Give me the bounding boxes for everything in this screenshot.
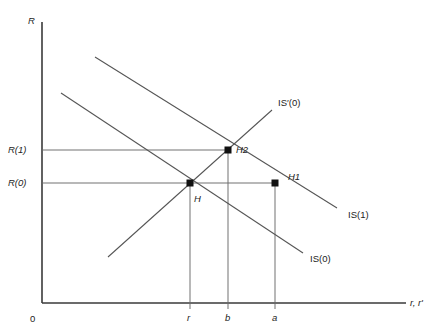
x-tick-label-a: a (272, 312, 277, 323)
curve-is1 (95, 57, 337, 208)
data-point-h (187, 180, 194, 187)
curve-label-is0: IS(0) (310, 253, 331, 264)
x-tick-label-b: b (225, 312, 230, 323)
x-tick-label-r: r (187, 312, 191, 323)
figure-container: R r, r' 0 R(1) R(0) r b a IS(1) IS(0) IS… (0, 0, 434, 336)
origin-label: 0 (30, 313, 35, 324)
curve-label-is1: IS(1) (348, 209, 369, 220)
curve-label-is-prime-0: IS′(0) (278, 97, 300, 108)
y-axis-label: R (28, 15, 35, 26)
y-tick-label-r1: R(1) (8, 144, 26, 155)
x-axis-label: r, r' (410, 297, 424, 308)
is-lm-diagram: R r, r' 0 R(1) R(0) r b a IS(1) IS(0) IS… (0, 0, 434, 336)
data-point-h2 (225, 147, 232, 154)
y-tick-label-r0: R(0) (8, 177, 26, 188)
curve-is0 (61, 93, 303, 253)
data-point-label-h2: H2 (236, 144, 249, 155)
data-point-h1 (272, 180, 279, 187)
data-point-label-h1: H1 (288, 171, 300, 182)
data-point-label-h: H (194, 193, 201, 204)
